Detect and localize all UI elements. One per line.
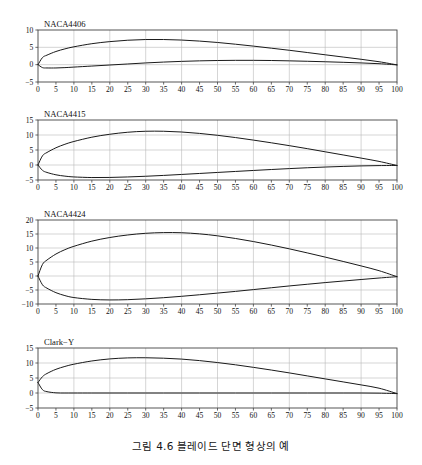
y-tick-label: 10	[26, 359, 34, 368]
x-tick-label: 0	[36, 307, 40, 316]
x-tick-label: 50	[214, 85, 222, 94]
x-tick-label: 95	[375, 85, 383, 94]
x-tick-label: 35	[160, 307, 168, 316]
x-tick-label: 25	[124, 183, 132, 192]
x-tick-label: 45	[196, 411, 204, 420]
y-tick-label: 5	[30, 43, 34, 52]
x-tick-label: 95	[375, 183, 383, 192]
x-tick-label: 70	[286, 307, 294, 316]
y-tick-label: 0	[30, 272, 34, 281]
x-tick-label: 20	[106, 183, 114, 192]
x-tick-label: 55	[232, 85, 240, 94]
figure-caption: 그림 4.6 블레이드 단면 형상의 예	[0, 438, 422, 453]
y-tick-label: 5	[30, 374, 34, 383]
x-axis-ticks: 0510152025303540455055606570758085909510…	[36, 304, 403, 316]
x-axis-ticks: 0510152025303540455055606570758085909510…	[36, 180, 403, 192]
chart-clark-y: 0510152025303540455055606570758085909510…	[0, 334, 422, 434]
x-tick-label: 60	[250, 411, 258, 420]
x-tick-label: 0	[36, 85, 40, 94]
x-tick-label: 15	[88, 307, 96, 316]
x-tick-label: 10	[70, 307, 78, 316]
chart-title: NACA4406	[44, 19, 86, 29]
x-tick-label: 80	[321, 307, 329, 316]
x-tick-label: 35	[160, 411, 168, 420]
chart-svg-0: 0510152025303540455055606570758085909510…	[0, 14, 422, 110]
grid-lines	[38, 30, 397, 82]
x-tick-label: 0	[36, 411, 40, 420]
chart-naca4424: 0510152025303540455055606570758085909510…	[0, 206, 422, 330]
y-tick-label: −10	[22, 300, 34, 309]
x-tick-label: 60	[250, 183, 258, 192]
chart-svg-3: 0510152025303540455055606570758085909510…	[0, 334, 422, 434]
y-tick-label: 0	[30, 60, 34, 69]
x-tick-label: 90	[357, 307, 365, 316]
y-axis-ticks: −5051015	[25, 344, 38, 413]
y-axis-ticks: −50510	[25, 26, 38, 87]
x-axis-ticks: 0510152025303540455055606570758085909510…	[36, 82, 403, 94]
x-tick-label: 80	[321, 85, 329, 94]
chart-title: Clark−Y	[44, 337, 74, 347]
x-tick-label: 10	[70, 411, 78, 420]
x-tick-label: 60	[250, 307, 258, 316]
x-tick-label: 85	[339, 85, 347, 94]
x-tick-label: 10	[70, 183, 78, 192]
x-tick-label: 0	[36, 183, 40, 192]
x-tick-label: 35	[160, 183, 168, 192]
x-tick-label: 95	[375, 307, 383, 316]
x-tick-label: 40	[178, 183, 186, 192]
y-tick-label: 10	[26, 26, 34, 35]
x-tick-label: 90	[357, 183, 365, 192]
x-tick-label: 45	[196, 85, 204, 94]
x-tick-label: 35	[160, 85, 168, 94]
y-tick-label: 15	[26, 344, 34, 353]
x-tick-label: 5	[54, 183, 58, 192]
x-tick-label: 55	[232, 307, 240, 316]
y-tick-label: 5	[30, 146, 34, 155]
x-tick-label: 15	[88, 183, 96, 192]
x-tick-label: 30	[142, 85, 150, 94]
figure-container: 0510152025303540455055606570758085909510…	[0, 0, 422, 465]
y-axis-ticks: −10−505101520	[22, 216, 38, 309]
x-axis-ticks: 0510152025303540455055606570758085909510…	[36, 408, 403, 420]
x-tick-label: 75	[303, 307, 311, 316]
y-tick-label: 10	[26, 244, 34, 253]
y-axis-ticks: −5051015	[25, 116, 38, 185]
grid-lines	[38, 120, 397, 180]
x-tick-label: 30	[142, 411, 150, 420]
x-tick-label: 50	[214, 411, 222, 420]
y-tick-label: −5	[25, 176, 33, 185]
x-tick-label: 85	[339, 307, 347, 316]
x-tick-label: 100	[391, 411, 403, 420]
x-tick-label: 25	[124, 307, 132, 316]
x-tick-label: 80	[321, 183, 329, 192]
x-tick-label: 10	[70, 85, 78, 94]
x-tick-label: 15	[88, 411, 96, 420]
x-tick-label: 85	[339, 411, 347, 420]
y-tick-label: 0	[30, 389, 34, 398]
x-tick-label: 25	[124, 85, 132, 94]
x-tick-label: 50	[214, 183, 222, 192]
x-tick-label: 5	[54, 85, 58, 94]
x-tick-label: 40	[178, 411, 186, 420]
x-tick-label: 5	[54, 307, 58, 316]
y-tick-label: 10	[26, 131, 34, 140]
x-tick-label: 95	[375, 411, 383, 420]
y-tick-label: 20	[26, 216, 34, 225]
x-tick-label: 50	[214, 307, 222, 316]
x-tick-label: 5	[54, 411, 58, 420]
x-tick-label: 70	[286, 85, 294, 94]
x-tick-label: 15	[88, 85, 96, 94]
x-tick-label: 65	[268, 183, 276, 192]
y-tick-label: −5	[25, 286, 33, 295]
x-tick-label: 55	[232, 183, 240, 192]
x-tick-label: 65	[268, 85, 276, 94]
chart-title: NACA4415	[44, 109, 86, 119]
x-tick-label: 30	[142, 307, 150, 316]
y-tick-label: 5	[30, 258, 34, 267]
chart-title: NACA4424	[44, 209, 86, 219]
x-tick-label: 20	[106, 307, 114, 316]
grid-lines	[38, 220, 397, 304]
x-tick-label: 20	[106, 411, 114, 420]
x-tick-label: 55	[232, 411, 240, 420]
y-tick-label: 15	[26, 116, 34, 125]
